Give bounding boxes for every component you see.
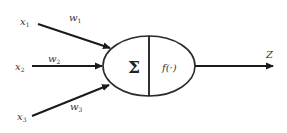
output: Z [195, 49, 274, 66]
input-x3-label: x3 [17, 111, 27, 123]
input-x2-label: x2 [15, 61, 25, 73]
input-x1-arrow [38, 24, 110, 48]
neuron-node: Σ f(·) [103, 36, 195, 96]
activation-function-label: f(·) [161, 62, 177, 73]
input-x1-label: x1 [20, 16, 29, 28]
neuron-diagram: x1 w1 x2 w2 x3 w3 Σ f(·) Z [0, 0, 287, 133]
weight-w2-label: w2 [48, 53, 61, 65]
input-x1: x1 w1 [20, 12, 110, 48]
input-x2: x2 w2 [15, 53, 102, 73]
input-x3: x3 w3 [17, 85, 109, 123]
summation-symbol: Σ [128, 57, 140, 77]
weight-w1-label: w1 [69, 12, 81, 24]
weight-w3-label: w3 [70, 101, 83, 113]
output-z-label: Z [265, 49, 274, 60]
